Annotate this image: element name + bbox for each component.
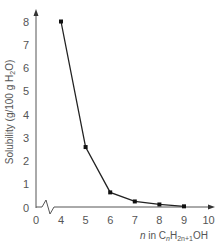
x-tick-label: 5 bbox=[83, 214, 89, 226]
data-point-marker bbox=[133, 199, 137, 203]
y-tick-label: 7 bbox=[23, 39, 29, 51]
x-tick-label: 10 bbox=[202, 214, 214, 226]
data-point-marker bbox=[84, 145, 88, 149]
x-tick-label: 4 bbox=[58, 214, 64, 226]
y-tick-label: 2 bbox=[23, 155, 29, 167]
data-point-marker bbox=[157, 202, 161, 206]
x-axis-arrow-icon bbox=[208, 205, 215, 210]
x-tick-labels: 045678910 bbox=[33, 214, 215, 226]
y-tick-label: 3 bbox=[23, 132, 29, 144]
data-point-marker bbox=[182, 204, 186, 208]
x-tick-label: 9 bbox=[181, 214, 187, 226]
x-axis-break bbox=[36, 200, 54, 214]
y-tick-labels: 012345678 bbox=[23, 16, 29, 214]
y-tick-label: 1 bbox=[23, 178, 29, 190]
y-axis-label: Solubility (g/100 g H2O) bbox=[4, 60, 16, 165]
data-points bbox=[59, 20, 186, 209]
solubility-chart: 012345678 045678910 Solubility (g/100 g … bbox=[0, 0, 222, 245]
x-tick-label: 7 bbox=[132, 214, 138, 226]
x-tick-label: 6 bbox=[107, 214, 113, 226]
solubility-line bbox=[61, 22, 184, 207]
x-axis-label: n in CnH2n+1OH bbox=[140, 230, 208, 242]
y-tick-label: 4 bbox=[23, 109, 29, 121]
y-axis-arrow-icon bbox=[34, 9, 39, 16]
y-tick-label: 5 bbox=[23, 85, 29, 97]
x-tick-label: 8 bbox=[156, 214, 162, 226]
data-point-marker bbox=[108, 190, 112, 194]
data-point-marker bbox=[59, 20, 63, 24]
y-tick-label: 8 bbox=[23, 16, 29, 28]
x-tick-label: 0 bbox=[33, 214, 39, 226]
y-tick-label: 6 bbox=[23, 62, 29, 74]
y-tick-label: 0 bbox=[23, 202, 29, 214]
chart-plot-area: 012345678 045678910 Solubility (g/100 g … bbox=[0, 0, 222, 245]
